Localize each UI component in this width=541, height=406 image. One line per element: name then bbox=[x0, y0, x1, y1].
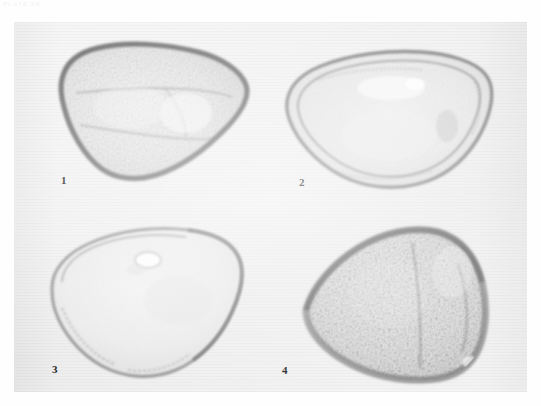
figure-number-2: 2 bbox=[299, 177, 305, 188]
photographic-plate: 1 bbox=[14, 22, 527, 392]
pollen-grain-3 bbox=[28, 212, 263, 384]
scanned-page: PLATE 24 bbox=[0, 0, 541, 406]
figure-number-4: 4 bbox=[282, 365, 288, 376]
pollen-grain-2 bbox=[269, 30, 514, 198]
figure-number-3: 3 bbox=[52, 364, 58, 375]
specimen-3: 3 bbox=[28, 212, 263, 384]
pollen-grain-1 bbox=[36, 27, 266, 192]
specimen-4: 4 bbox=[262, 202, 512, 392]
specimen-1: 1 bbox=[36, 27, 266, 192]
figure-number-1: 1 bbox=[61, 175, 67, 186]
specimen-2: 2 bbox=[269, 30, 514, 198]
running-head: PLATE 24 bbox=[3, 1, 40, 7]
pollen-grain-4 bbox=[262, 202, 512, 392]
